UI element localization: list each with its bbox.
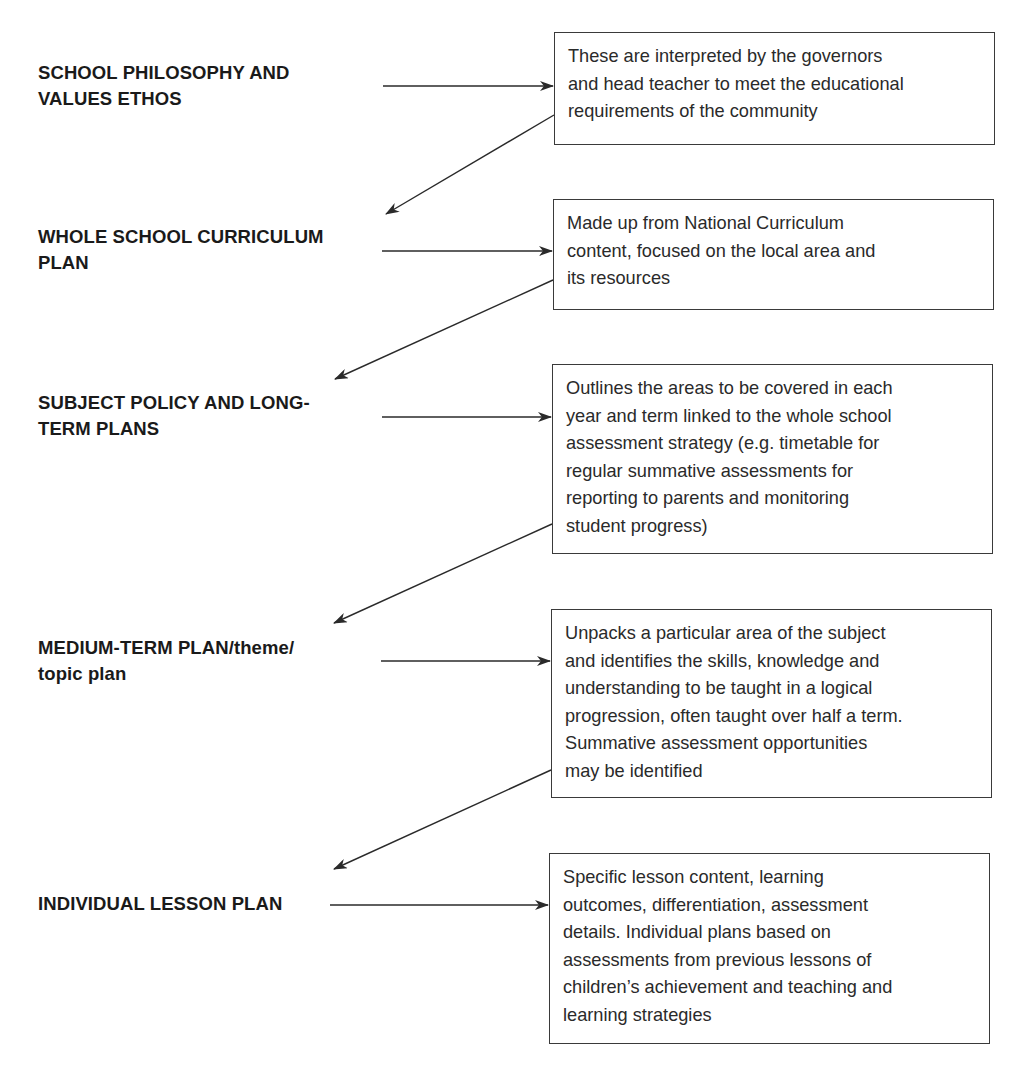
description-line: may be identified [565, 758, 979, 786]
stage-5-box: Specific lesson content, learning outcom… [549, 853, 990, 1044]
stage-3-label: SUBJECT POLICY AND LONG- TERM PLANS [38, 390, 310, 442]
stage-4-box: Unpacks a particular area of the subject… [551, 609, 992, 798]
label-line: TERM PLANS [38, 416, 310, 442]
arrow-down-left-icon [335, 280, 553, 379]
label-line: SCHOOL PHILOSOPHY AND [38, 60, 290, 86]
label-line: VALUES ETHOS [38, 86, 290, 112]
arrow-down-left-icon [334, 524, 552, 623]
label-line: SUBJECT POLICY AND LONG- [38, 390, 310, 416]
arrow-down-left-icon [386, 115, 554, 214]
stage-2-label: WHOLE SCHOOL CURRICULUM PLAN [38, 224, 324, 276]
description-line: requirements of the community [568, 98, 982, 126]
stage-3-box: Outlines the areas to be covered in each… [552, 364, 993, 554]
description-line: Summative assessment opportunities [565, 730, 979, 758]
description-line: regular summative assessments for [566, 458, 980, 486]
description-line: student progress) [566, 513, 980, 541]
description-line: understanding to be taught in a logical [565, 675, 979, 703]
stage-1-box: These are interpreted by the governors a… [554, 32, 995, 145]
description-line: Specific lesson content, learning [563, 864, 977, 892]
description-line: Unpacks a particular area of the subject [565, 620, 979, 648]
description-line: and head teacher to meet the educational [568, 71, 982, 99]
label-line: INDIVIDUAL LESSON PLAN [38, 891, 282, 917]
stage-1-label: SCHOOL PHILOSOPHY AND VALUES ETHOS [38, 60, 290, 112]
description-line: Outlines the areas to be covered in each [566, 375, 980, 403]
description-line: progression, often taught over half a te… [565, 703, 979, 731]
label-line: WHOLE SCHOOL CURRICULUM [38, 224, 324, 250]
description-line: assessments from previous lessons of [563, 947, 977, 975]
description-line: year and term linked to the whole school [566, 403, 980, 431]
stage-2-box: Made up from National Curriculum content… [553, 199, 994, 310]
stage-5-label: INDIVIDUAL LESSON PLAN [38, 891, 282, 917]
description-line: Made up from National Curriculum [567, 210, 981, 238]
label-line: MEDIUM-TERM PLAN/theme/ [38, 635, 294, 661]
label-line: PLAN [38, 250, 324, 276]
stage-4-label: MEDIUM-TERM PLAN/theme/ topic plan [38, 635, 294, 687]
description-line: and identifies the skills, knowledge and [565, 648, 979, 676]
description-line: children’s achievement and teaching and [563, 974, 977, 1002]
description-line: its resources [567, 265, 981, 293]
description-line: content, focused on the local area and [567, 238, 981, 266]
description-line: learning strategies [563, 1002, 977, 1030]
arrow-down-left-icon [334, 770, 551, 869]
label-line: topic plan [38, 661, 294, 687]
description-line: These are interpreted by the governors [568, 43, 982, 71]
description-line: details. Individual plans based on [563, 919, 977, 947]
description-line: assessment strategy (e.g. timetable for [566, 430, 980, 458]
description-line: outcomes, differentiation, assessment [563, 892, 977, 920]
description-line: reporting to parents and monitoring [566, 485, 980, 513]
